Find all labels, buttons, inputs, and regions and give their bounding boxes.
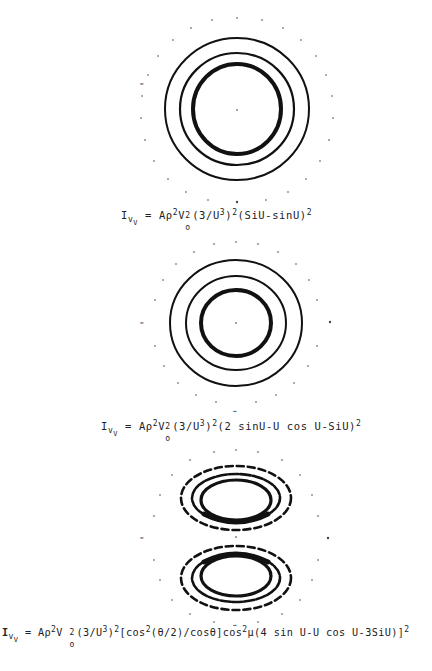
panel-3-center-dot	[235, 536, 237, 538]
term: (SiU-sinU)	[238, 209, 307, 221]
subscript-o: o	[69, 640, 74, 649]
exponent: 2	[69, 628, 74, 637]
panel-2-left-marker: ≈	[140, 319, 144, 326]
panel-3-upper-lobe	[181, 466, 291, 530]
panel-3-lower-lobe	[181, 546, 291, 610]
velocity-symbol: V	[178, 209, 185, 221]
term: [cos	[120, 627, 146, 638]
panel-3-left-marker: ≈	[140, 534, 144, 541]
exponent: 2	[307, 208, 312, 217]
formula-panel-2: IvV = Aρ2V2o(3/U3)2(2 sinU-U cos U-SiU)2	[101, 419, 361, 438]
term: (θ/2)/cosθ]cos	[151, 627, 242, 638]
exponent: 2	[404, 625, 409, 634]
subscript-o: o	[185, 223, 190, 232]
term: μ(4 sin U-U cos U-3SiU)]	[248, 627, 405, 638]
subscript-V: V	[113, 430, 118, 438]
exponent: 2	[185, 211, 190, 220]
exponent: 2	[165, 422, 170, 431]
panel-2-center-dot	[235, 322, 237, 324]
formula-panel-1: IvV = Aρ2V2o(3/U3)2(SiU-sinU)2	[121, 208, 312, 227]
panel-2-dotted-halo	[154, 241, 331, 403]
panel-2-top-marker: ↔	[233, 407, 237, 414]
subscript-V: V	[133, 219, 138, 227]
exponent: 2	[356, 419, 361, 428]
term: (3/U	[172, 420, 200, 432]
formula-panel-3: IvV = Aρ2V 2o(3/U3)2[cos2(θ/2)/cosθ]cos2…	[2, 625, 410, 644]
velocity-symbol: V	[56, 627, 69, 638]
equals-A-rho: = Aρ	[125, 420, 153, 432]
panel-1-rings	[165, 38, 309, 180]
equals-A-rho: = Aρ	[25, 627, 51, 638]
intensity-symbol: I	[101, 420, 108, 432]
equals-A-rho: = Aρ	[145, 209, 173, 221]
subscript-o: o	[165, 434, 170, 443]
panel-1-left-marker: ≈	[140, 80, 144, 87]
term: (3/U	[76, 627, 102, 638]
intensity-symbol: I	[121, 209, 128, 221]
term: (3/U	[192, 209, 220, 221]
velocity-symbol: V	[158, 420, 165, 432]
panel-1-center-dot	[236, 109, 238, 111]
term: (2 sinU-U cos U-SiU)	[218, 420, 356, 432]
intensity-patterns-figure: ≈ ≈ ↔ ≈ ↔	[0, 0, 432, 671]
subscript-V: V	[14, 636, 19, 644]
